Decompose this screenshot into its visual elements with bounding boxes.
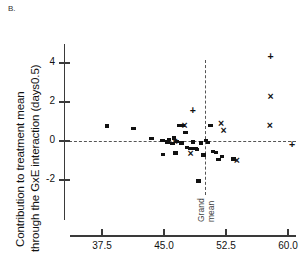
data-point-square <box>204 139 209 142</box>
data-point-square <box>208 124 213 127</box>
data-point-square <box>220 155 225 158</box>
scatter-chart: B. Contribution to treatment mean throug… <box>0 0 304 261</box>
data-point-square <box>195 148 200 151</box>
data-point-plus: + <box>266 52 275 61</box>
data-point-cross: × <box>180 121 189 130</box>
data-point-cross: × <box>219 126 228 135</box>
y-tick-4 <box>59 62 70 63</box>
x-tick-37.5 <box>101 229 103 237</box>
y-axis-title-line1: Contribution to treatment mean <box>14 91 26 247</box>
data-point-cross: × <box>232 156 241 165</box>
data-point-square <box>149 137 154 140</box>
data-point-square <box>216 158 221 161</box>
data-point-square <box>199 141 204 144</box>
y-tick-label-0: 0 <box>33 134 55 145</box>
panel-label: B. <box>8 4 16 13</box>
y-tick-label--2: -2 <box>33 173 55 184</box>
data-point-square <box>160 139 165 142</box>
x-tick-60.0 <box>287 229 289 237</box>
y-axis-title-line2: through the GxE interaction (days0.5) <box>29 65 41 252</box>
x-axis-line <box>70 235 296 237</box>
x-tick-label-37.5: 37.5 <box>82 240 122 251</box>
data-point-square <box>196 179 201 182</box>
x-tick-label-52.5: 52.5 <box>206 240 246 251</box>
data-point-cross: × <box>266 92 275 101</box>
data-point-cross: × <box>186 149 195 158</box>
data-point-square <box>201 153 206 156</box>
y-axis-line <box>64 44 65 220</box>
y-tick-0 <box>59 140 70 141</box>
data-point-square <box>183 131 188 134</box>
data-point-square <box>161 153 166 156</box>
data-point-square <box>131 127 136 130</box>
y-tick-label-2: 2 <box>33 95 55 106</box>
y-tick-label-4: 4 <box>33 56 55 67</box>
grand-mean-label-line1: Grand <box>196 198 206 222</box>
data-point-cross: × <box>170 137 179 146</box>
grand-mean-label-line2: mean <box>206 201 216 222</box>
x-tick-52.5 <box>225 229 227 237</box>
x-tick-label-45.0: 45.0 <box>144 240 184 251</box>
x-tick-label-60.0: 60.0 <box>268 240 304 251</box>
data-point-square <box>191 140 196 143</box>
data-point-plus: + <box>288 140 297 149</box>
data-point-plus: + <box>188 106 197 115</box>
data-point-square <box>173 151 178 154</box>
y-tick-2 <box>59 101 70 102</box>
data-point-square <box>214 151 219 154</box>
data-point-square <box>105 124 110 127</box>
x-tick-45.0 <box>163 229 165 237</box>
data-point-square <box>179 141 184 144</box>
data-point-cross: × <box>265 121 274 130</box>
grand-mean-reference-line <box>205 60 206 195</box>
y-tick--2 <box>59 179 70 180</box>
